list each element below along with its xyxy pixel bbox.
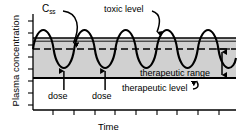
x-axis-ticks	[53, 110, 219, 115]
css-label: Css	[42, 4, 55, 14]
toxic-level-leader-arrow	[152, 11, 159, 32]
toxic-level-label: toxic level	[104, 5, 144, 14]
therapeutic-level-label: therapeutic level	[122, 84, 188, 93]
dose-label-2: dose	[92, 92, 112, 101]
y-axis-label: Plasma concentration	[11, 9, 21, 113]
dose-label-1: dose	[48, 92, 68, 101]
x-axis-label: Time	[98, 122, 119, 132]
therapeutic-level-leader-arrow	[193, 81, 198, 89]
css-label-subscript: ss	[49, 8, 55, 15]
y-axis-ticks	[28, 21, 33, 105]
therapeutic-range-label: therapeutic range	[140, 69, 210, 78]
chart-figure: Plasma concentration Time Css toxic leve…	[0, 0, 238, 137]
